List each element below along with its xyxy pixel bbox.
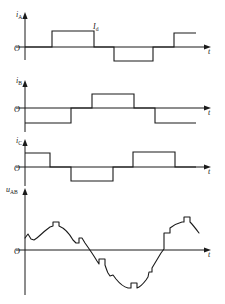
ib-time-label: t (208, 108, 211, 117)
ia-vertical-axis-arrow (22, 12, 27, 19)
ic-time-label: t (208, 167, 211, 176)
ic-origin-label: O (14, 164, 20, 173)
ia-time-label: t (208, 47, 211, 56)
ia-origin-label: O (14, 44, 20, 53)
ib-origin-label: O (14, 105, 20, 114)
uab-axis-label: uAB (6, 185, 18, 195)
panel-ic: iC O t (14, 136, 211, 186)
uab-vertical-axis-arrow (22, 188, 27, 195)
waveform-svg: iA O t Id iB O t iC O t (0, 0, 225, 304)
ia-id-annotation: Id (92, 22, 99, 32)
ia-waveform (25, 31, 196, 61)
ib-axis-label: iB (16, 76, 22, 86)
waveform-figure: iA O t Id iB O t iC O t (0, 0, 225, 304)
ic-axis-label: iC (16, 136, 22, 146)
panel-ib: iB O t (14, 76, 211, 132)
uab-waveform (25, 217, 199, 288)
ib-vertical-axis-arrow (22, 80, 27, 87)
uab-origin-label: O (14, 247, 20, 256)
uab-time-label: t (208, 250, 211, 259)
panel-uab: uAB O t (6, 185, 211, 295)
ia-axis-label: iA (16, 10, 22, 20)
panel-ia: iA O t Id (14, 10, 211, 61)
ic-vertical-axis-arrow (22, 139, 27, 146)
